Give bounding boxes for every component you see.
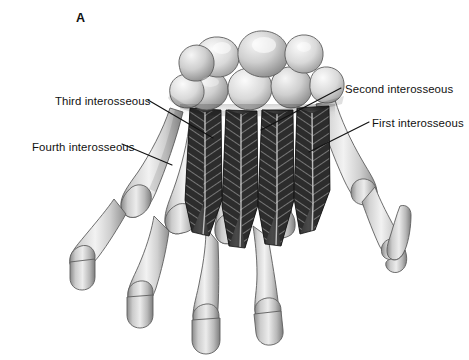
label-second-interosseous: Second interosseous (345, 84, 453, 95)
label-third-interosseous: Third interosseous (55, 96, 151, 107)
label-fourth-interosseous: Fourth interosseous (32, 142, 135, 153)
hand-anatomy-illustration (0, 0, 469, 360)
label-first-interosseous: First interosseous (372, 118, 464, 129)
panel-letter: A (76, 11, 85, 25)
anatomy-figure: A Third interosseous Fourth interosseous… (0, 0, 469, 360)
